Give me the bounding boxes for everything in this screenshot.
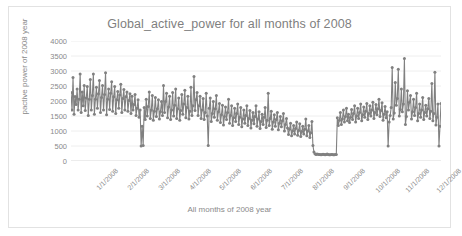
chart-title: Global_active_power for all months of 20… bbox=[9, 17, 450, 31]
x-tick-label: 11/1/2008 bbox=[404, 167, 431, 194]
y-tick-label: 4000 bbox=[50, 37, 67, 46]
y-axis-title: pactive power of 2008 year bbox=[20, 2, 29, 132]
x-tick-label: 9/1/2008 bbox=[342, 167, 366, 191]
plot-area: 40003500300025002000150010005000 1/1/200… bbox=[71, 41, 441, 161]
x-tick-label: 6/1/2008 bbox=[249, 167, 273, 191]
x-tick-label: 10/1/2008 bbox=[374, 167, 401, 194]
x-tick-label: 2/1/2008 bbox=[126, 167, 150, 191]
y-tick-label: 1000 bbox=[50, 127, 67, 136]
x-tick-label: 1/1/2008 bbox=[95, 167, 119, 191]
x-tick-label: 8/1/2008 bbox=[311, 167, 335, 191]
y-tick-label: 0 bbox=[63, 157, 67, 166]
x-tick-label: 5/1/2008 bbox=[218, 167, 242, 191]
x-tick-label: 12/1/2008 bbox=[435, 167, 462, 194]
y-tick-label: 2500 bbox=[50, 82, 67, 91]
y-tick-label: 3000 bbox=[50, 67, 67, 76]
chart-container: Global_active_power for all months of 20… bbox=[8, 6, 451, 228]
series-plot bbox=[71, 41, 441, 161]
x-axis-title: All months of 2008 year bbox=[9, 205, 450, 214]
x-axis-tick-labels: 1/1/20082/1/20083/1/20084/1/20085/1/2008… bbox=[71, 163, 441, 209]
y-tick-label: 3500 bbox=[50, 52, 67, 61]
x-tick-label: 4/1/2008 bbox=[187, 167, 211, 191]
y-tick-label: 1500 bbox=[50, 112, 67, 121]
x-tick-label: 3/1/2008 bbox=[157, 167, 181, 191]
y-axis-tick-labels: 40003500300025002000150010005000 bbox=[33, 41, 67, 161]
y-tick-label: 500 bbox=[54, 142, 67, 151]
y-tick-label: 2000 bbox=[50, 97, 67, 106]
x-tick-label: 7/1/2008 bbox=[280, 167, 304, 191]
